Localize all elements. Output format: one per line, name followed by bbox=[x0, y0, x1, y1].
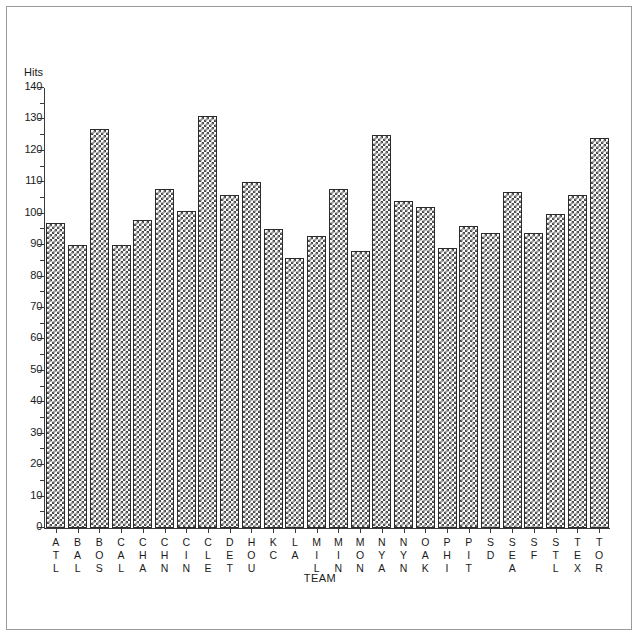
bar-column[interactable] bbox=[68, 88, 87, 528]
x-axis-tick-mark bbox=[360, 529, 361, 533]
x-axis-tick-label: CHA bbox=[133, 536, 152, 575]
bar-column[interactable] bbox=[220, 88, 239, 528]
bar[interactable] bbox=[198, 116, 217, 528]
bar[interactable] bbox=[68, 245, 87, 528]
bar[interactable] bbox=[112, 245, 131, 528]
bar[interactable] bbox=[351, 251, 370, 528]
bar[interactable] bbox=[177, 211, 196, 528]
x-axis-label-char: D bbox=[481, 549, 500, 562]
bar-column[interactable] bbox=[416, 88, 435, 528]
bar[interactable] bbox=[568, 195, 587, 528]
bar-column[interactable] bbox=[133, 88, 152, 528]
bar[interactable] bbox=[546, 214, 565, 528]
bar-column[interactable] bbox=[264, 88, 283, 528]
bar[interactable] bbox=[285, 258, 304, 528]
x-axis-tick-mark bbox=[251, 529, 252, 533]
bar-column[interactable] bbox=[394, 88, 413, 528]
bar[interactable] bbox=[372, 135, 391, 528]
bar[interactable] bbox=[307, 236, 326, 528]
x-axis-label-char: A bbox=[68, 549, 87, 562]
bar-column[interactable] bbox=[242, 88, 261, 528]
bar[interactable] bbox=[438, 248, 457, 528]
x-axis-tick-mark bbox=[338, 529, 339, 533]
bar-column[interactable] bbox=[198, 88, 217, 528]
bar-column[interactable] bbox=[90, 88, 109, 528]
bar[interactable] bbox=[459, 226, 478, 528]
y-axis-tick-label: 20 bbox=[2, 457, 42, 469]
x-axis-tick-mark bbox=[556, 529, 557, 533]
bar[interactable] bbox=[264, 229, 283, 528]
bar-column[interactable] bbox=[546, 88, 565, 528]
bar-column[interactable] bbox=[285, 88, 304, 528]
x-axis-tick-label: LA bbox=[285, 536, 304, 562]
x-axis-label-char: D bbox=[220, 536, 239, 549]
x-axis-tick-label: BOS bbox=[90, 536, 109, 575]
bar[interactable] bbox=[503, 192, 522, 528]
x-axis-tick-label: SEA bbox=[503, 536, 522, 575]
bar-column[interactable] bbox=[177, 88, 196, 528]
bar-column[interactable] bbox=[329, 88, 348, 528]
x-axis-label-char: A bbox=[46, 536, 65, 549]
bar[interactable] bbox=[133, 220, 152, 528]
x-axis-tick-label: PIT bbox=[459, 536, 478, 575]
x-axis-tick-label: DET bbox=[220, 536, 239, 575]
x-axis-label-char: K bbox=[264, 536, 283, 549]
bar[interactable] bbox=[394, 201, 413, 528]
x-axis-tick-mark bbox=[512, 529, 513, 533]
y-axis-tick-label: 110 bbox=[2, 174, 42, 186]
x-axis-label-char: E bbox=[220, 549, 239, 562]
x-axis-label-char: M bbox=[351, 536, 370, 549]
bar[interactable] bbox=[242, 182, 261, 528]
bar-column[interactable] bbox=[459, 88, 478, 528]
x-axis-tick-label: NYN bbox=[394, 536, 413, 575]
x-axis-label-char: M bbox=[329, 536, 348, 549]
bar-column[interactable] bbox=[112, 88, 131, 528]
bar[interactable] bbox=[46, 223, 65, 528]
x-axis-tick-mark bbox=[425, 529, 426, 533]
bar[interactable] bbox=[329, 189, 348, 528]
bar-column[interactable] bbox=[307, 88, 326, 528]
bar-column[interactable] bbox=[481, 88, 500, 528]
x-axis-label-char: C bbox=[112, 536, 131, 549]
x-axis-tick-label: MIL bbox=[307, 536, 326, 575]
y-axis-tick-label: 60 bbox=[2, 331, 42, 343]
y-axis-minor-tick-mark bbox=[40, 103, 44, 104]
bar-column[interactable] bbox=[372, 88, 391, 528]
x-axis-label-char: C bbox=[264, 549, 283, 562]
y-axis-minor-tick-mark bbox=[40, 323, 44, 324]
y-axis-tick-label: 80 bbox=[2, 269, 42, 281]
bar-column[interactable] bbox=[46, 88, 65, 528]
bar[interactable] bbox=[481, 233, 500, 528]
chart-screenshot: Hits 0102030405060708090100110120130140 … bbox=[0, 0, 640, 638]
bar[interactable] bbox=[155, 189, 174, 528]
x-axis-label-char: A bbox=[416, 549, 435, 562]
x-axis-label-char: T bbox=[590, 536, 609, 549]
x-axis-label-char: S bbox=[503, 536, 522, 549]
y-axis-tick-label: 120 bbox=[2, 143, 42, 155]
x-axis-tick-mark bbox=[165, 529, 166, 533]
bar-column[interactable] bbox=[524, 88, 543, 528]
x-axis-title: TEAM bbox=[0, 572, 640, 584]
x-axis-label-char: O bbox=[351, 549, 370, 562]
bar[interactable] bbox=[416, 207, 435, 528]
bar-column[interactable] bbox=[155, 88, 174, 528]
x-axis-label-char: C bbox=[177, 536, 196, 549]
x-axis-tick-label: KC bbox=[264, 536, 283, 562]
bar-column[interactable] bbox=[590, 88, 609, 528]
bar[interactable] bbox=[90, 129, 109, 528]
bar[interactable] bbox=[524, 233, 543, 528]
bar-column[interactable] bbox=[503, 88, 522, 528]
bar-column[interactable] bbox=[438, 88, 457, 528]
x-axis-tick-label: MON bbox=[351, 536, 370, 575]
y-axis-minor-tick-mark bbox=[40, 134, 44, 135]
x-axis-tick-label: SF bbox=[524, 536, 543, 562]
x-axis-tick-mark bbox=[490, 529, 491, 533]
bar-column[interactable] bbox=[351, 88, 370, 528]
bar[interactable] bbox=[220, 195, 239, 528]
bar-column[interactable] bbox=[568, 88, 587, 528]
x-axis-line bbox=[44, 528, 610, 529]
x-axis-tick-mark bbox=[599, 529, 600, 533]
x-axis-tick-label: SD bbox=[481, 536, 500, 562]
bar[interactable] bbox=[590, 138, 609, 528]
x-axis-label-char: Y bbox=[394, 549, 413, 562]
